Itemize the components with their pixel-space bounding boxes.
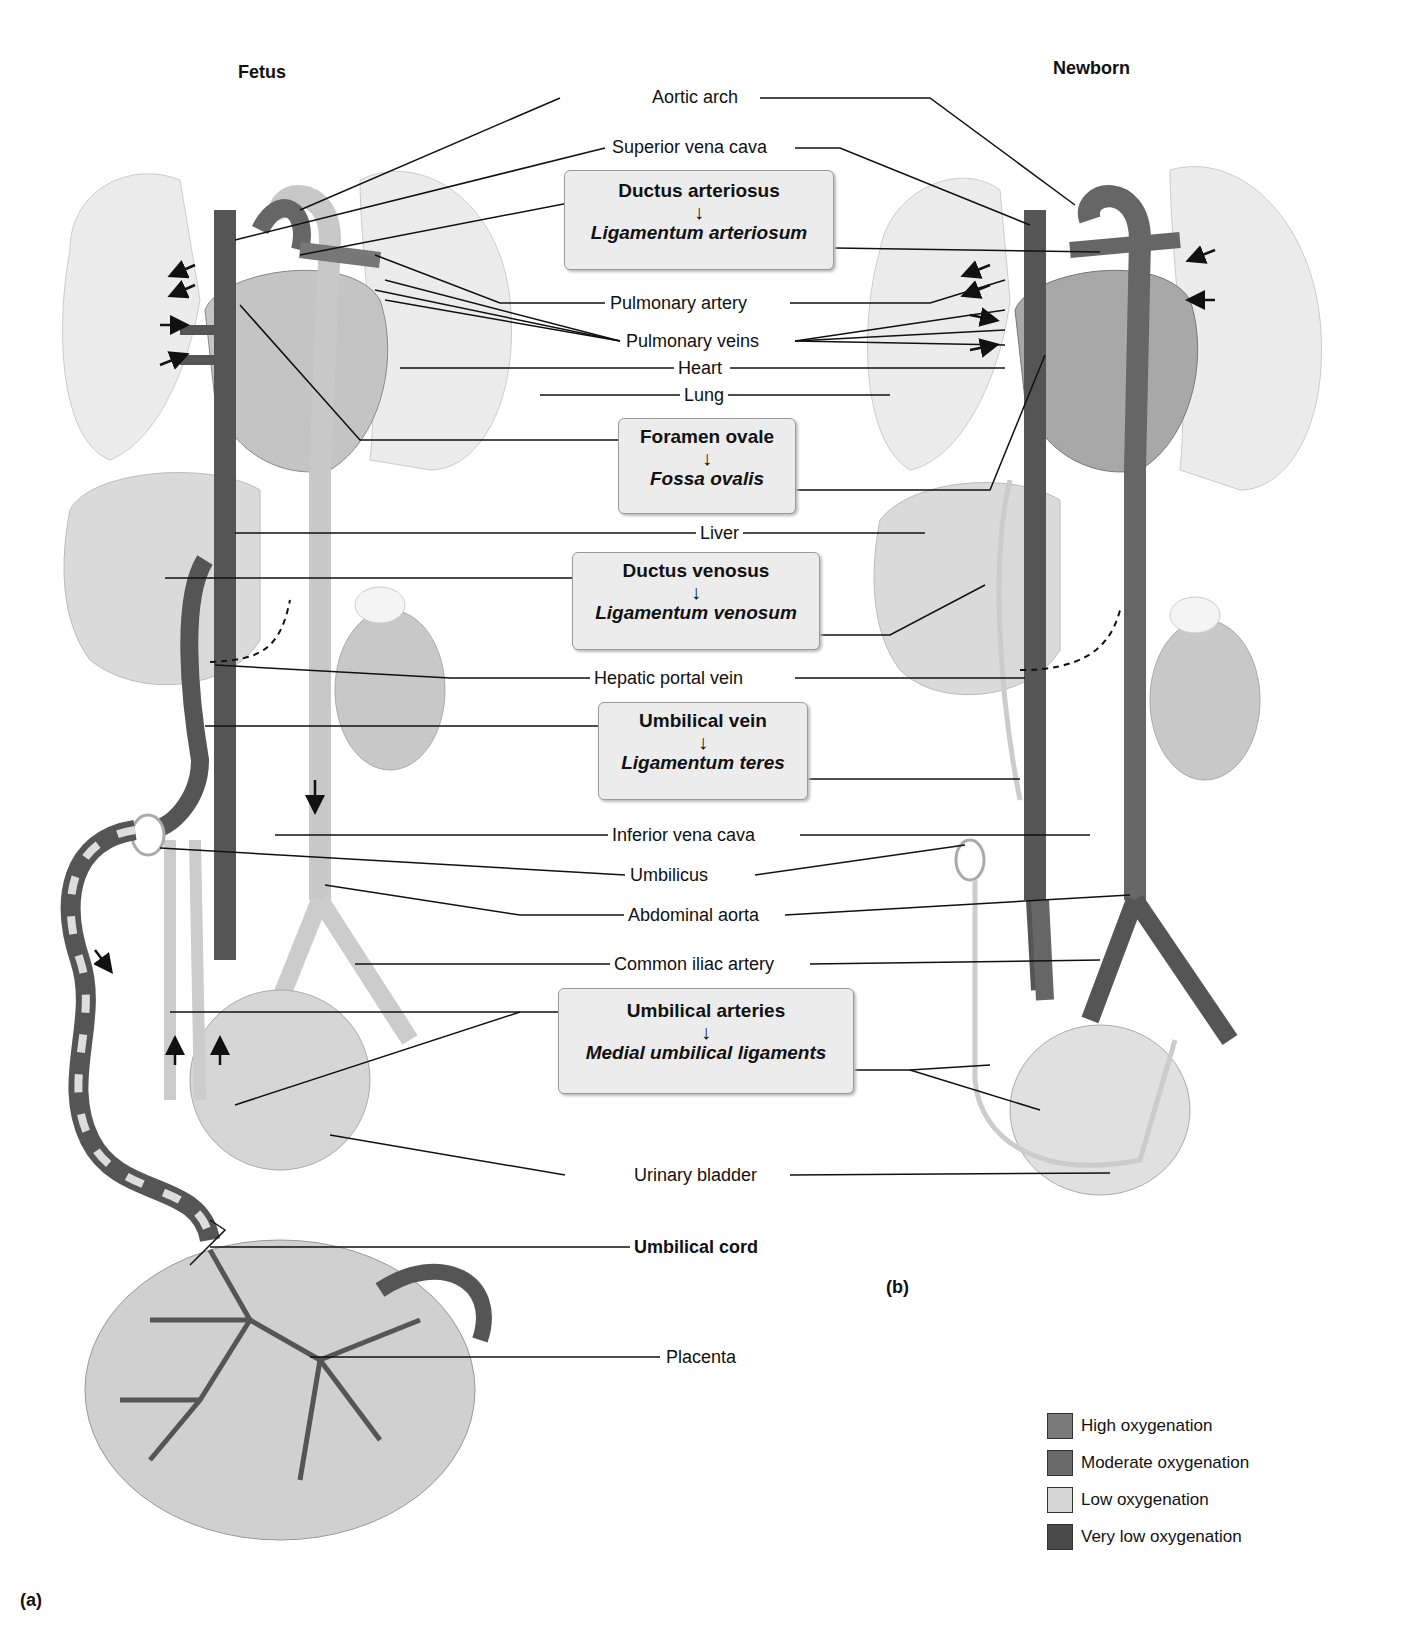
newborn-structure: Ligamentum arteriosum bbox=[565, 221, 833, 245]
legend-item-very-low: Very low oxygenation bbox=[1047, 1518, 1249, 1555]
legend-swatch-very-low bbox=[1047, 1524, 1073, 1550]
fetal-structure: Umbilical arteries bbox=[559, 999, 853, 1023]
legend-label: High oxygenation bbox=[1081, 1416, 1212, 1436]
arrow-down-icon: ↓ bbox=[599, 733, 807, 751]
label-pulmonary-artery: Pulmonary artery bbox=[606, 292, 751, 314]
arrow-down-icon: ↓ bbox=[619, 449, 795, 467]
newborn-structure: Ligamentum venosum bbox=[573, 601, 819, 625]
label-pulmonary-veins: Pulmonary veins bbox=[622, 330, 763, 352]
legend-label: Moderate oxygenation bbox=[1081, 1453, 1249, 1473]
label-placenta: Placenta bbox=[662, 1346, 740, 1368]
legend-item-low: Low oxygenation bbox=[1047, 1481, 1249, 1518]
transition-box-ductus-venosus: Ductus venosus ↓ Ligamentum venosum bbox=[572, 552, 820, 650]
transition-box-umbilical-arteries: Umbilical arteries ↓ Medial umbilical li… bbox=[558, 988, 854, 1094]
label-hepatic-portal-vein: Hepatic portal vein bbox=[590, 667, 747, 689]
label-heart: Heart bbox=[674, 357, 726, 379]
fetal-structure: Ductus arteriosus bbox=[565, 179, 833, 203]
label-lung: Lung bbox=[680, 384, 728, 406]
legend-swatch-low bbox=[1047, 1487, 1073, 1513]
legend-label: Very low oxygenation bbox=[1081, 1527, 1242, 1547]
label-liver: Liver bbox=[696, 522, 743, 544]
label-common-iliac-artery: Common iliac artery bbox=[610, 953, 778, 975]
label-umbilical-cord: Umbilical cord bbox=[630, 1236, 762, 1258]
newborn-structure: Ligamentum teres bbox=[599, 751, 807, 775]
legend-item-high: High oxygenation bbox=[1047, 1407, 1249, 1444]
label-superior-vena-cava: Superior vena cava bbox=[608, 136, 771, 158]
label-abdominal-aorta: Abdominal aorta bbox=[624, 904, 763, 926]
label-umbilicus: Umbilicus bbox=[626, 864, 712, 886]
legend-swatch-high bbox=[1047, 1413, 1073, 1439]
legend: High oxygenation Moderate oxygenation Lo… bbox=[1047, 1407, 1249, 1555]
newborn-structure: Fossa ovalis bbox=[619, 467, 795, 491]
transition-box-foramen-ovale: Foramen ovale ↓ Fossa ovalis bbox=[618, 418, 796, 514]
legend-label: Low oxygenation bbox=[1081, 1490, 1209, 1510]
legend-item-moderate: Moderate oxygenation bbox=[1047, 1444, 1249, 1481]
fetal-structure: Ductus venosus bbox=[573, 559, 819, 583]
fetal-structure: Foramen ovale bbox=[619, 425, 795, 449]
arrow-down-icon: ↓ bbox=[565, 203, 833, 221]
fetal-structure: Umbilical vein bbox=[599, 709, 807, 733]
arrow-down-icon: ↓ bbox=[573, 583, 819, 601]
arrow-down-icon: ↓ bbox=[559, 1023, 853, 1041]
label-inferior-vena-cava: Inferior vena cava bbox=[608, 824, 759, 846]
newborn-structure: Medial umbilical ligaments bbox=[559, 1041, 853, 1065]
transition-box-umbilical-vein: Umbilical vein ↓ Ligamentum teres bbox=[598, 702, 808, 800]
panel-title-fetus: Fetus bbox=[238, 62, 286, 83]
label-aortic-arch: Aortic arch bbox=[648, 86, 742, 108]
panel-title-newborn: Newborn bbox=[1053, 58, 1130, 79]
transition-box-ductus-arteriosus: Ductus arteriosus ↓ Ligamentum arteriosu… bbox=[564, 170, 834, 270]
label-urinary-bladder: Urinary bladder bbox=[630, 1164, 761, 1186]
panel-letter-b: (b) bbox=[886, 1277, 909, 1298]
panel-letter-a: (a) bbox=[20, 1590, 42, 1611]
legend-swatch-moderate bbox=[1047, 1450, 1073, 1476]
